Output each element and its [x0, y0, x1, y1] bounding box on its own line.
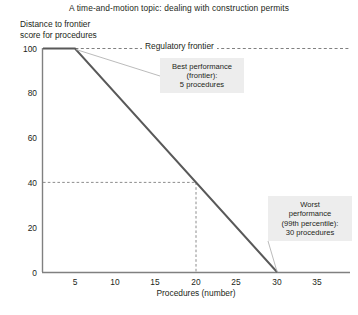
x-tick-20: 20 [191, 277, 201, 287]
callout-worst-performance: Worst performance (99th percentile): 30 … [268, 196, 352, 241]
regulatory-frontier-label: Regulatory frontier [142, 41, 217, 51]
y-tick-80: 80 [28, 88, 38, 98]
x-tick-10: 10 [110, 277, 120, 287]
y-tick-20: 20 [28, 223, 38, 233]
y-tick-0: 0 [32, 268, 37, 278]
y-tick-100: 100 [23, 44, 37, 54]
chart-container: A time-and-motion topic: dealing with co… [0, 0, 358, 315]
x-tick-25: 25 [231, 277, 241, 287]
x-tick-15: 15 [150, 277, 160, 287]
callout-best-performance: Best performance (frontier): 5 procedure… [160, 58, 244, 93]
x-tick-5: 5 [73, 277, 78, 287]
x-axis-label: Procedures (number) [42, 288, 350, 298]
x-tick-35: 35 [312, 277, 322, 287]
x-tick-30: 30 [272, 277, 282, 287]
y-tick-60: 60 [28, 133, 38, 143]
y-tick-40: 40 [28, 178, 38, 188]
